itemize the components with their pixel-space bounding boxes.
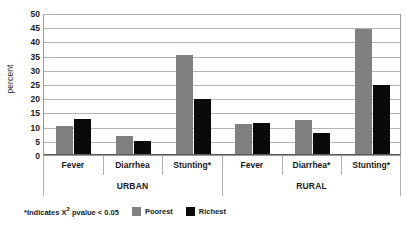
y-axis-tick-15: 15	[16, 109, 40, 118]
y-axis-tick-45: 45	[16, 24, 40, 33]
category-label-4: Diarrhea*	[282, 156, 342, 175]
category-separator-5	[341, 156, 342, 175]
legend-label-richest: Richest	[199, 207, 226, 216]
bar-richest-4	[313, 133, 330, 155]
y-axis-tick-30: 30	[16, 67, 40, 76]
category-separator-3	[222, 156, 223, 175]
significance-footnote: *Indicates X2 pvalue < 0.05	[24, 206, 119, 217]
category-separator-4	[282, 156, 283, 175]
bar-poorest-2	[176, 55, 193, 155]
category-separator-1	[103, 156, 104, 175]
category-label-3: Fever	[222, 156, 282, 175]
category-separator-edge-6	[400, 156, 401, 175]
grouped-bar-chart: percent 05101520253035404550 FeverDiarrh…	[0, 0, 406, 229]
category-label-1: Diarrhea	[103, 156, 163, 175]
y-axis-title: percent	[5, 47, 15, 111]
y-axis-tick-0: 0	[16, 152, 40, 161]
legend-item-poorest: Poorest	[132, 207, 173, 216]
bar-richest-1	[134, 141, 151, 155]
category-label-0: Fever	[43, 156, 103, 175]
bar-richest-3	[253, 123, 270, 155]
plot-area	[43, 14, 401, 156]
region-separator-2	[400, 175, 401, 196]
legend-label-poorest: Poorest	[145, 207, 173, 216]
bar-poorest-1	[116, 136, 133, 155]
bar-richest-0	[74, 119, 91, 155]
legend-item-richest: Richest	[186, 207, 226, 216]
y-axis-tick-10: 10	[16, 123, 40, 132]
y-axis-tick-25: 25	[16, 81, 40, 90]
category-separator-2	[162, 156, 163, 175]
y-axis-tick-5: 5	[16, 138, 40, 147]
legend: PoorestRichest	[119, 207, 226, 216]
bar-richest-2	[194, 99, 211, 155]
category-separator-edge-0	[43, 156, 44, 175]
y-axis-tick-labels: 05101520253035404550	[16, 14, 40, 156]
bar-poorest-3	[235, 124, 252, 155]
y-axis-tick-20: 20	[16, 95, 40, 104]
bar-poorest-0	[56, 126, 73, 155]
bars-layer	[44, 15, 400, 155]
axis-baseline	[44, 154, 400, 155]
region-separator-0	[43, 175, 44, 196]
legend-swatch-poorest	[132, 207, 141, 216]
category-label-5: Stunting*	[341, 156, 401, 175]
region-label-rural: RURAL	[222, 176, 401, 196]
chart-footer: *Indicates X2 pvalue < 0.05 PoorestRiche…	[24, 204, 226, 218]
category-axis: FeverDiarrheaStunting*FeverDiarrhea*Stun…	[43, 156, 401, 198]
bar-richest-5	[373, 85, 390, 155]
region-label-urban: URBAN	[43, 176, 222, 196]
footnote-superscript: 2	[67, 206, 70, 212]
legend-swatch-richest	[186, 207, 195, 216]
region-separator-1	[222, 175, 223, 196]
bar-poorest-4	[295, 120, 312, 155]
bar-poorest-5	[355, 29, 372, 155]
y-axis-tick-50: 50	[16, 10, 40, 19]
y-axis-tick-35: 35	[16, 52, 40, 61]
y-axis-tick-40: 40	[16, 38, 40, 47]
category-label-2: Stunting*	[162, 156, 222, 175]
